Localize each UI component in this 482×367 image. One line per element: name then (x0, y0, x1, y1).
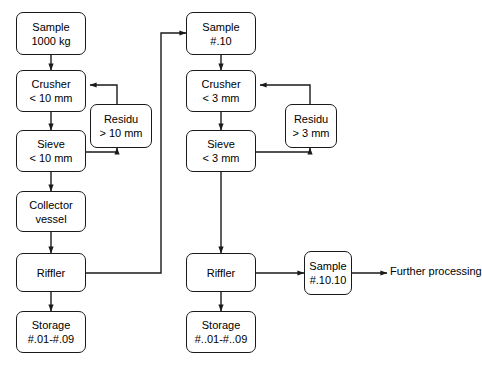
node-riffler-right[interactable]: Riffler (186, 253, 256, 292)
node-storage-right-line2: #..01-#..09 (195, 332, 248, 346)
node-sample-10-line1: Sample (202, 20, 239, 34)
node-sample-1000kg[interactable]: Sample 1000 kg (16, 12, 86, 55)
node-sample-10-line2: #.10 (210, 34, 231, 48)
node-crusher-3mm-line2: < 3 mm (203, 91, 240, 105)
node-sample-10-10-line2: #.10.10 (310, 273, 347, 287)
node-collector-vessel[interactable]: Collector vessel (16, 191, 86, 232)
node-residu-10mm-line2: > 10 mm (99, 126, 142, 140)
node-residu-3mm-line2: > 3 mm (293, 126, 330, 140)
node-storage-left-line1: Storage (32, 318, 71, 332)
node-riffler-left-line1: Riffler (37, 266, 66, 280)
node-sample-1000kg-line2: 1000 kg (31, 34, 70, 48)
node-crusher-3mm-line1: Crusher (201, 77, 240, 91)
node-crusher-10mm-line1: Crusher (31, 77, 70, 91)
node-storage-left[interactable]: Storage #.01-#.09 (16, 311, 86, 353)
node-collector-vessel-line1: Collector (29, 198, 72, 212)
node-sieve-10mm[interactable]: Sieve < 10 mm (16, 130, 86, 172)
node-sample-10-10-line1: Sample (309, 259, 346, 273)
node-storage-left-line2: #.01-#.09 (28, 332, 74, 346)
node-storage-right[interactable]: Storage #..01-#..09 (186, 311, 256, 353)
node-sieve-3mm[interactable]: Sieve < 3 mm (186, 130, 256, 172)
edge-residu-to-crusher-right (260, 85, 310, 104)
node-crusher-10mm-line2: < 10 mm (29, 91, 72, 105)
node-residu-3mm-line1: Residu (294, 112, 328, 126)
node-sample-10-10[interactable]: Sample #.10.10 (304, 251, 352, 295)
edge-residu-to-crusher-left (90, 85, 117, 104)
node-sample-1000kg-line1: Sample (32, 20, 69, 34)
node-crusher-3mm[interactable]: Crusher < 3 mm (186, 70, 256, 112)
label-further-processing-line2: processing (429, 265, 482, 277)
node-riffler-right-line1: Riffler (207, 266, 236, 280)
node-sample-10[interactable]: Sample #.10 (186, 12, 256, 55)
node-sieve-3mm-line1: Sieve (207, 137, 235, 151)
node-residu-10mm-line1: Residu (104, 112, 138, 126)
node-collector-vessel-line2: vessel (35, 212, 66, 226)
node-crusher-10mm[interactable]: Crusher < 10 mm (16, 70, 86, 112)
node-residu-3mm[interactable]: Residu > 3 mm (285, 104, 337, 148)
edge-riffler-left-to-sample-10 (86, 33, 186, 273)
label-further-processing: Further processing (390, 264, 482, 278)
edge-sieve-to-residu-right (256, 148, 310, 152)
node-sieve-3mm-line2: < 3 mm (203, 151, 240, 165)
node-sieve-10mm-line2: < 10 mm (29, 151, 72, 165)
node-sieve-10mm-line1: Sieve (37, 137, 65, 151)
node-storage-right-line1: Storage (202, 318, 241, 332)
node-residu-10mm[interactable]: Residu > 10 mm (90, 104, 152, 148)
edge-sieve-to-residu-left (86, 148, 117, 152)
node-riffler-left[interactable]: Riffler (16, 253, 86, 292)
label-further-processing-line1: Further (390, 265, 425, 277)
